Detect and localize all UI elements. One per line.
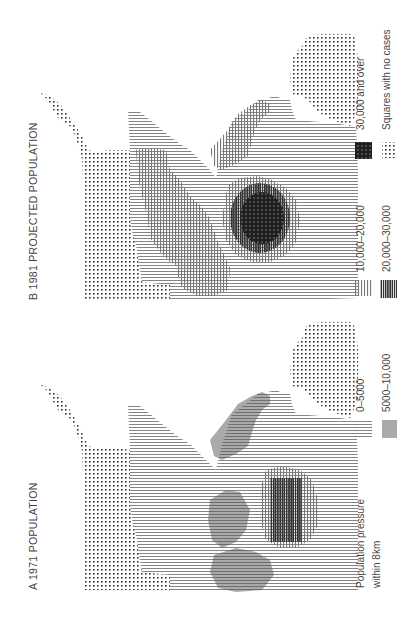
panel-b-no-cases-east (290, 34, 358, 126)
panel-b-map (40, 34, 358, 300)
legend-label-30000-plus: 30,000 and over (355, 58, 366, 130)
panel-a-title: A 1971 POPULATION (27, 482, 39, 590)
swatch-0-5000 (355, 420, 372, 438)
panel-a-no-cases-east (290, 322, 358, 418)
legend-label-0-5000: 0–5000 (355, 379, 366, 412)
swatch-5000-10000 (382, 420, 397, 438)
population-pressure-figure: B 1981 PROJECTED POPULATION A 1971 POPUL… (0, 0, 419, 629)
panel-a-map (40, 322, 358, 592)
legend-heading-line1: Population pressure (355, 499, 366, 588)
panel-a-20000-30000 (270, 478, 302, 542)
panel-b-30000-plus (240, 192, 284, 244)
panel-a-legend-swatches (355, 420, 397, 438)
swatch-30000-plus (355, 142, 372, 159)
swatch-20000-30000 (380, 280, 397, 298)
legend-label-5000-10000: 5000–10,000 (381, 354, 392, 412)
swatch-10000-20000 (355, 280, 372, 296)
panel-b-title: B 1981 PROJECTED POPULATION (27, 122, 39, 300)
swatch-no-cases (382, 142, 396, 158)
legend-label-no-cases: Squares with no cases (381, 29, 392, 130)
legend-heading-line2: within 8km (371, 541, 382, 588)
legend-label-10000-20000: 10,000–20,000 (355, 205, 366, 272)
legend-label-20000-30000: 20,000–30,000 (381, 205, 392, 272)
